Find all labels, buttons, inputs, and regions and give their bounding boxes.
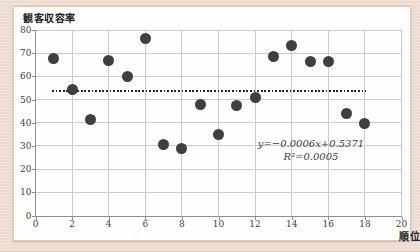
- data-point: [250, 92, 261, 103]
- data-point: [195, 99, 206, 110]
- y-tick-label: 50: [12, 95, 32, 105]
- data-point: [286, 40, 297, 51]
- y-tick-label: 70: [12, 48, 32, 58]
- x-tick-label: 14: [282, 219, 302, 229]
- y-tick-mark: [32, 100, 36, 101]
- x-tick-label: 0: [26, 219, 46, 229]
- y-axis-title: 観客収容率: [23, 10, 76, 25]
- screenshot-root: 0102030405060708002468101214161820 観客収容率…: [0, 0, 420, 252]
- data-point: [268, 51, 279, 62]
- x-tick-label: 8: [172, 219, 192, 229]
- r-squared-label: R²=0.0005: [251, 150, 371, 163]
- y-tick-mark: [32, 146, 36, 147]
- x-axis-title: 順位: [399, 228, 420, 243]
- data-point: [103, 55, 114, 66]
- x-tick-label: 4: [99, 219, 119, 229]
- trendline-equation: y=−0.0006x+0.5371: [251, 137, 371, 150]
- v-gridline: [72, 30, 73, 216]
- y-tick-mark: [32, 192, 36, 193]
- v-gridline: [145, 30, 146, 216]
- trendline-annotation: y=−0.0006x+0.5371 R²=0.0005: [251, 137, 371, 163]
- data-point: [323, 56, 334, 67]
- x-tick-label: 12: [245, 219, 265, 229]
- y-tick-label: 30: [12, 141, 32, 151]
- y-tick-label: 40: [12, 118, 32, 128]
- data-point: [140, 33, 151, 44]
- y-tick-mark: [32, 216, 36, 217]
- y-tick-mark: [32, 30, 36, 31]
- x-tick-label: 18: [355, 219, 375, 229]
- v-gridline: [255, 30, 256, 216]
- y-tick-mark: [32, 76, 36, 77]
- data-point: [85, 114, 96, 125]
- y-tick-label: 10: [12, 187, 32, 197]
- data-point: [341, 108, 352, 119]
- data-point: [122, 71, 133, 82]
- v-gridline: [291, 30, 292, 216]
- v-gridline: [181, 30, 182, 216]
- data-point: [67, 84, 78, 95]
- v-gridline: [218, 30, 219, 216]
- trendline: [52, 90, 366, 92]
- x-tick-label: 10: [209, 219, 229, 229]
- y-tick-label: 20: [12, 164, 32, 174]
- y-tick-mark: [32, 169, 36, 170]
- y-tick-label: 80: [12, 25, 32, 35]
- v-gridline: [401, 30, 402, 216]
- y-axis-spine: [35, 30, 36, 217]
- data-point: [213, 129, 224, 140]
- y-tick-mark: [32, 53, 36, 54]
- chart-panel: [13, 6, 411, 241]
- x-tick-label: 16: [318, 219, 338, 229]
- x-tick-label: 6: [135, 219, 155, 229]
- x-tick-label: 2: [62, 219, 82, 229]
- y-tick-mark: [32, 123, 36, 124]
- data-point: [305, 56, 316, 67]
- y-tick-label: 60: [12, 71, 32, 81]
